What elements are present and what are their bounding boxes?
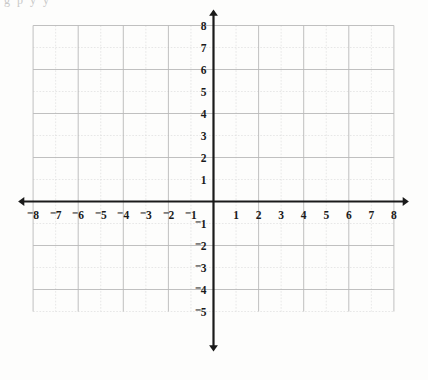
y-tick-label: 5	[201, 86, 207, 98]
x-axis-arrow-right	[403, 197, 409, 206]
coordinate-plane-figure: ⁻8⁻7⁻6⁻5⁻4⁻3⁻2⁻11234567887654321⁻1⁻2⁻3⁻4…	[0, 0, 428, 380]
y-tick-label: 4	[201, 108, 207, 120]
y-tick-label: 8	[201, 20, 207, 32]
y-axis-arrow-up	[209, 10, 218, 16]
y-tick-label: ⁻3	[195, 262, 207, 274]
x-tick-label: 8	[391, 209, 397, 221]
x-tick-label: 1	[233, 209, 239, 221]
x-tick-label: ⁻3	[140, 209, 152, 221]
y-tick-label: ⁻4	[195, 284, 207, 296]
tick-labels: ⁻8⁻7⁻6⁻5⁻4⁻3⁻2⁻11234567887654321⁻1⁻2⁻3⁻4…	[27, 20, 397, 318]
x-tick-label: 6	[346, 209, 352, 221]
coordinate-plane-svg: ⁻8⁻7⁻6⁻5⁻4⁻3⁻2⁻11234567887654321⁻1⁻2⁻3⁻4…	[0, 0, 428, 380]
x-tick-label: ⁻4	[117, 209, 129, 221]
x-tick-label: 2	[256, 209, 262, 221]
y-tick-label: ⁻1	[195, 218, 207, 230]
x-tick-label: ⁻8	[27, 209, 39, 221]
y-tick-label: 7	[201, 42, 207, 54]
axes	[18, 10, 409, 352]
x-tick-label: ⁻6	[72, 209, 84, 221]
y-tick-label: 2	[201, 152, 207, 164]
x-tick-label: 3	[278, 209, 284, 221]
y-tick-label: 6	[201, 64, 207, 76]
y-tick-label: ⁻5	[195, 306, 207, 318]
y-tick-label: 3	[201, 130, 207, 142]
y-tick-label: ⁻2	[195, 240, 207, 252]
x-tick-label: 7	[368, 209, 374, 221]
x-tick-label: ⁻2	[163, 209, 175, 221]
x-tick-label: ⁻5	[95, 209, 107, 221]
x-tick-label: 5	[323, 209, 329, 221]
x-tick-label: ⁻7	[50, 209, 62, 221]
x-axis-arrow-left	[18, 197, 24, 206]
x-tick-label: 4	[301, 209, 307, 221]
y-axis-arrow-down	[209, 345, 218, 351]
y-tick-label: 1	[201, 174, 207, 186]
